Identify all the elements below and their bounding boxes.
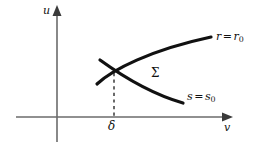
upper-curve-label-equals: = — [221, 30, 233, 43]
lower-curve-label-subscript: 0 — [211, 95, 216, 104]
delta-tick-label: δ — [108, 120, 115, 132]
lower-curve-label: s=s0 — [187, 91, 216, 104]
upper-curve-label: r=r0 — [216, 31, 244, 44]
diagram-svg — [0, 0, 272, 148]
sigma-region-label: Σ — [151, 67, 159, 79]
lower-curve-label-var: s — [187, 90, 193, 103]
figure-canvas: u v δ Σ r=r0 s=s0 — [0, 0, 272, 148]
u-axis-label: u — [43, 5, 50, 16]
u-axis-arrowhead — [53, 5, 62, 16]
upper-curve-label-subscript: 0 — [239, 35, 244, 44]
lower-characteristic-curve — [100, 60, 183, 103]
v-axis-label: v — [224, 122, 230, 133]
lower-curve-label-equals: = — [193, 90, 205, 103]
